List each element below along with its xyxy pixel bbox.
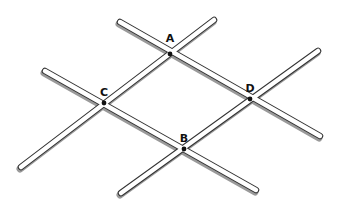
point-d-dot [248,97,253,102]
point-label-a: A [166,33,175,44]
point-a-dot [168,52,173,57]
point-label-c: C [100,87,108,98]
point-label-d: D [245,83,254,94]
point-label-b: B [180,133,188,144]
point-c-dot [102,101,107,106]
diagram-canvas: A C D B [0,0,342,219]
point-b-dot [182,147,187,152]
